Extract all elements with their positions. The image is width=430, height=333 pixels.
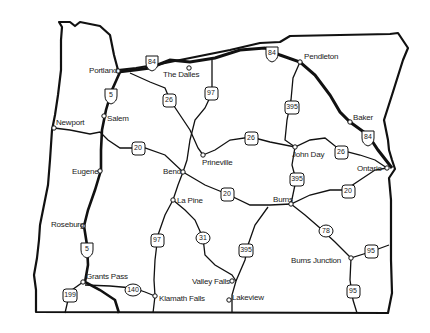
city-label: Prineville: [202, 158, 232, 167]
route-shield-icon: 26: [334, 145, 348, 159]
route-shield-icon: 26: [244, 131, 258, 145]
route-shield-icon: 84: [361, 130, 375, 144]
route-shield-icon: 5: [104, 88, 118, 102]
route-shield-icon: 95: [364, 244, 378, 258]
city-label: Valley Falls: [192, 277, 230, 286]
route-shield-icon: 20: [220, 187, 234, 201]
route-shield-icon: 395: [290, 172, 304, 186]
route-shield-icon: 31: [196, 231, 210, 245]
city-label: Roseburg: [51, 220, 84, 229]
route-shield-icon: 20: [341, 184, 355, 198]
city-label: Burns Junction: [291, 256, 341, 265]
city-label: Eugene: [72, 167, 98, 176]
route-shield-icon: 395: [239, 243, 253, 257]
route-shield-icon: 84: [265, 46, 279, 60]
city-label: Newport: [56, 118, 84, 127]
route-shield-icon: 84: [145, 55, 159, 69]
city-label: Burns: [273, 195, 293, 204]
route-shield-icon: 78: [319, 224, 333, 238]
route-shield-icon: 20: [131, 141, 145, 155]
city-label: Ontario: [357, 164, 382, 173]
city-label: Grants Pass: [86, 272, 128, 281]
route-shield-icon: 26: [162, 93, 176, 107]
city-label: Bend: [163, 167, 181, 176]
route-shield-icon: 140: [126, 283, 140, 297]
interstate-84: [118, 48, 392, 168]
city-label: Baker: [353, 113, 373, 122]
city-label: Salem: [107, 114, 129, 123]
route-shield-icon: 199: [63, 288, 77, 302]
route-shield-icon: 5: [80, 242, 94, 256]
city-label: Lakeview: [232, 293, 264, 302]
city-label: La Pine: [177, 196, 203, 205]
city-label: Portland: [89, 66, 117, 75]
route-shield-icon: 395: [285, 100, 299, 114]
city-label: John Day: [292, 150, 324, 159]
city-label: Pendleton: [304, 52, 338, 61]
route-shield-icon: 97: [204, 86, 218, 100]
city-label: The Dalles: [163, 70, 199, 79]
route-shield-icon: 95: [346, 284, 360, 298]
route-shield-icon: 97: [150, 233, 164, 247]
city-label: Klamath Falls: [159, 294, 205, 303]
